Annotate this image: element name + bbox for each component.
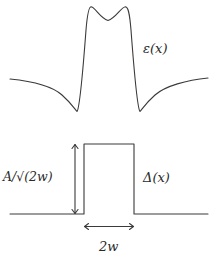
diagram-canvas [0,0,215,256]
epsilon-label: ε(x) [143,42,167,55]
delta-label: Δ(x) [143,171,170,184]
height-arrow [72,145,78,214]
width-arrow [85,224,134,230]
width-label: 2w [99,240,118,253]
epsilon-curve [10,7,208,112]
height-label: A/√(2w) [3,171,53,184]
